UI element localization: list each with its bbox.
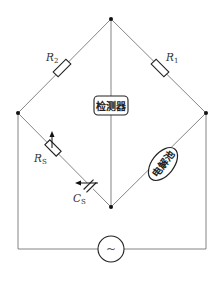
node-left [16,111,20,115]
node-top [109,17,113,21]
variable-resistor-rs [45,140,61,156]
electrolytic-cell: 电解池 [143,142,184,185]
ac-source-icon: ~ [106,242,116,256]
wire-left-bottom [18,113,111,207]
label-r1: R1 [165,51,178,65]
ac-source: ~ [98,236,124,262]
bridge-circuit-diagram: R2 R1 RS CS 检测器 电解池 ~ [0,0,221,285]
label-r2: R2 [45,51,58,65]
detector-box: 检测器 [94,96,128,115]
node-right [204,111,208,115]
label-cs: CS [73,192,86,206]
node-bottom [109,205,113,209]
wire-source-left [18,113,98,249]
label-rs: RS [33,152,47,166]
wire-source-right [124,113,206,249]
detector-label: 检测器 [96,100,127,112]
